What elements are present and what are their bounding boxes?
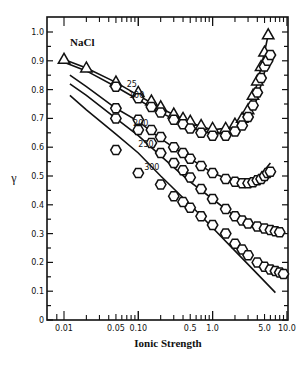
data-point-100	[146, 102, 156, 111]
curve-label-300: 300	[144, 163, 159, 172]
x-tick-label: 0.05	[107, 324, 125, 333]
data-point-25	[58, 53, 69, 63]
y-tick-label: 0.5	[31, 172, 44, 181]
x-tick-label: 1.0	[206, 324, 219, 333]
data-point-100	[248, 101, 258, 110]
data-point-100	[256, 74, 266, 83]
data-point-100	[185, 124, 195, 133]
curve-label-25: 25	[127, 80, 137, 89]
data-point-100	[237, 121, 247, 130]
y-axis-ticks: 00.10.20.30.40.50.60.70.80.91.0	[31, 28, 288, 325]
data-point-100	[252, 88, 262, 97]
data-point-200	[156, 133, 166, 142]
data-point-100	[243, 113, 253, 122]
data-point-200	[169, 143, 179, 152]
data-point-100	[265, 51, 275, 60]
y-tick-label: 0.9	[31, 57, 44, 66]
x-axis-label: Ionic Strength	[134, 337, 201, 349]
x-tick-label: 5.0	[258, 324, 271, 333]
data-point-300	[133, 169, 143, 178]
y-tick-label: 0	[39, 316, 44, 325]
curve-label-100: 100	[129, 91, 144, 100]
data-point-250	[196, 185, 206, 194]
y-tick-label: 1.0	[31, 28, 44, 37]
data-point-300	[221, 229, 231, 238]
x-tick-label: 0.5	[184, 324, 197, 333]
data-point-250	[111, 114, 121, 123]
x-tick-label: 10.0	[278, 324, 296, 333]
data-point-250	[156, 149, 166, 158]
data-point-250	[185, 173, 195, 182]
x-tick-label: 0.10	[129, 324, 147, 333]
data-points	[58, 29, 288, 279]
data-point-250	[169, 159, 179, 168]
data-point-300	[185, 203, 195, 212]
activity-coefficient-chart: 00.10.20.30.40.50.60.70.80.91.0 0.010.05…	[0, 0, 308, 368]
data-point-100	[111, 82, 121, 91]
y-tick-label: 0.6	[31, 143, 44, 152]
y-tick-label: 0.2	[31, 258, 44, 267]
y-tick-label: 0.8	[31, 86, 44, 95]
data-point-250	[221, 205, 231, 214]
data-point-300	[278, 269, 288, 278]
data-point-300	[196, 212, 206, 221]
data-point-200	[207, 169, 217, 178]
data-point-250	[275, 228, 285, 237]
data-point-200	[111, 104, 121, 113]
data-point-200	[265, 167, 275, 176]
data-point-100	[156, 108, 166, 117]
data-point-300	[156, 180, 166, 189]
data-point-200	[196, 161, 206, 170]
data-point-25	[263, 29, 274, 39]
x-tick-label: 0.01	[55, 324, 73, 333]
y-tick-label: 0.3	[31, 230, 44, 239]
data-point-100	[221, 131, 231, 140]
y-tick-label: 0.1	[31, 287, 44, 296]
data-point-100	[196, 128, 206, 137]
data-point-100	[169, 115, 179, 124]
data-point-100	[207, 131, 217, 140]
plot-frame	[47, 17, 288, 320]
y-tick-label: 0.7	[31, 114, 44, 123]
y-axis-label: γ	[10, 171, 17, 185]
y-tick-label: 0.4	[31, 201, 44, 210]
chart-title: NaCl	[70, 36, 94, 48]
data-point-200	[185, 154, 195, 163]
data-point-300	[169, 192, 179, 201]
data-point-250	[207, 195, 217, 204]
curve-label-200: 200	[133, 119, 148, 128]
curve-label-250: 250	[138, 140, 153, 149]
data-point-300	[243, 251, 253, 260]
data-point-300	[207, 221, 217, 230]
data-point-300	[111, 146, 121, 155]
